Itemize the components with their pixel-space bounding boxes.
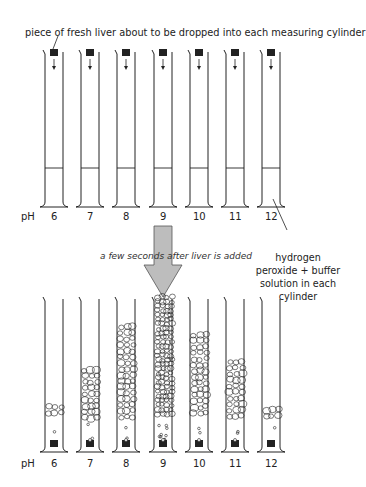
foam-bubble — [169, 350, 173, 354]
foam-bubble — [117, 342, 124, 348]
foam-bubble — [124, 337, 130, 342]
ph-value-top: 11 — [229, 211, 242, 222]
ph-value-bottom: 11 — [229, 458, 242, 469]
big-down-arrow — [144, 226, 182, 297]
foam-bubble — [190, 404, 198, 411]
ph-value-bottom: 10 — [193, 458, 206, 469]
ph-value-bottom: 12 — [265, 458, 278, 469]
foam-bubble — [82, 385, 88, 390]
foam-bubble — [124, 367, 130, 372]
ph-value-bottom: 6 — [51, 458, 57, 469]
foam-bubble — [59, 405, 64, 409]
ph-value-top: 6 — [51, 211, 57, 222]
foam-bubble — [82, 373, 89, 379]
foam-bubble — [154, 412, 160, 417]
solution-note: hydrogen peroxide + buffer solution in e… — [253, 251, 343, 303]
measuring-cylinder-top-1 — [76, 50, 104, 207]
ph-label-top: pH — [21, 211, 35, 222]
foam-bubble — [203, 331, 210, 337]
foam-bubble — [124, 343, 129, 348]
ph-value-top: 7 — [87, 211, 93, 222]
foam-bubble — [130, 366, 138, 372]
foam-bubble — [154, 384, 161, 390]
foam-bubble — [52, 405, 58, 410]
measuring-cylinder-top-0 — [40, 50, 68, 207]
foam-bubble — [228, 360, 233, 364]
drop-arrow-head — [161, 66, 165, 70]
gas-bubble — [89, 439, 92, 442]
drop-arrow-head — [52, 66, 56, 70]
foam-bubble — [234, 402, 239, 407]
foam-bubble — [204, 350, 210, 355]
gas-bubble — [165, 434, 168, 437]
title-pointer — [53, 36, 58, 49]
foam-bubble — [129, 330, 136, 336]
foam-bubble — [227, 409, 232, 413]
drop-arrow-head — [269, 66, 273, 70]
foam-bubble — [160, 402, 165, 406]
foam-bubble — [117, 359, 125, 366]
measuring-cylinder-top-2 — [112, 50, 140, 207]
foam-bubble — [168, 361, 174, 366]
foam-bubble — [122, 407, 130, 414]
foam-bubble — [169, 335, 174, 339]
gas-bubble — [125, 426, 128, 429]
foam-bubble — [191, 386, 198, 392]
foam-bubble — [95, 379, 101, 384]
foam-bubble — [164, 412, 170, 417]
gas-bubble — [273, 426, 276, 429]
foam-bubble — [117, 336, 124, 342]
gas-bubble — [198, 427, 201, 430]
drop-arrow-head — [233, 66, 237, 70]
ph-value-top: 12 — [265, 211, 278, 222]
measuring-cylinder-bottom-5 — [221, 297, 249, 452]
foam-bubble — [93, 403, 100, 409]
foam-bubble — [123, 373, 129, 378]
transition-caption: a few seconds after liver is added — [100, 251, 252, 261]
foam-bubble — [169, 330, 174, 334]
foam-bubble — [125, 361, 130, 366]
foam-bubble — [268, 414, 273, 418]
ph-value-bottom: 9 — [160, 458, 166, 469]
foam-bubble — [118, 403, 123, 407]
liver-piece — [159, 49, 167, 56]
foam-bubble — [196, 380, 202, 385]
liver-piece — [50, 49, 58, 56]
ph-value-top: 10 — [193, 211, 206, 222]
ph-label-bottom: pH — [21, 458, 35, 469]
foam-bubble — [160, 411, 166, 416]
foam-bubble — [82, 392, 87, 396]
foam-bubble — [119, 325, 124, 330]
foam-bubble — [202, 404, 208, 409]
foam-bubble — [170, 294, 176, 299]
foam-bubble — [131, 396, 137, 401]
liver-piece — [267, 440, 275, 447]
foam-bubble — [154, 407, 161, 413]
foam-bubble — [89, 374, 95, 379]
foam-bubble — [190, 398, 198, 404]
foam-bubble — [164, 403, 170, 408]
foam-bubble — [191, 345, 197, 350]
gas-bubble — [199, 431, 202, 434]
measuring-cylinder-bottom-0 — [40, 297, 68, 452]
foam-bubble — [227, 402, 232, 407]
foam-bubble — [226, 366, 232, 371]
measuring-cylinder-top-6 — [257, 50, 285, 207]
measuring-cylinder-bottom-4 — [185, 297, 213, 452]
foam-bubble — [203, 375, 208, 379]
liver-piece — [195, 49, 203, 56]
foam-bubble — [124, 323, 131, 329]
gas-bubble — [162, 439, 165, 442]
foam-bubble — [125, 414, 130, 418]
ph-value-top: 8 — [123, 211, 129, 222]
foam-bubble — [155, 312, 160, 316]
foam-bubble — [129, 349, 135, 354]
foam-bubble — [156, 328, 160, 332]
foam-bubble — [155, 366, 162, 372]
foam-bubble — [130, 336, 135, 341]
foam-bubble — [160, 352, 165, 357]
liver-piece — [231, 49, 239, 56]
foam-bubble — [167, 366, 173, 371]
liver-piece — [86, 49, 94, 56]
